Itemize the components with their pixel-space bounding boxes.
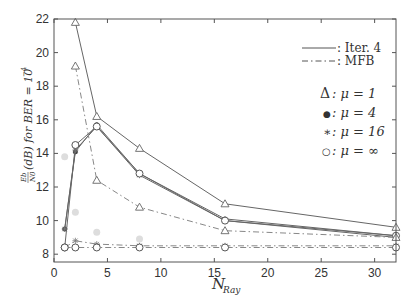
y-label-frac-num: Eb <box>20 172 28 183</box>
star-marker <box>72 238 78 244</box>
legend-mu16-label: : μ = 16 <box>332 124 385 139</box>
circle-marker <box>72 142 79 149</box>
y-tick-label: 12 <box>36 180 50 194</box>
circle-marker <box>93 244 100 251</box>
legend-iter4-label: : Iter. 4 <box>337 41 382 55</box>
circle-marker <box>93 123 100 130</box>
circle-marker <box>136 244 143 251</box>
circle-marker <box>222 244 229 251</box>
circle-marker <box>61 244 68 251</box>
y-label-frac-den: N0 <box>29 171 37 183</box>
y-axis-label: Eb N0 (dB) for BER = 10 −4 <box>20 66 37 183</box>
series-line <box>61 244 399 251</box>
x-tick-label: 10 <box>154 266 168 280</box>
ghost-point <box>61 153 68 160</box>
legend-mu4-label: : μ = 4 <box>332 105 376 120</box>
circle-marker <box>136 170 143 177</box>
legend-star-symbol: ∗ <box>323 125 331 139</box>
legend-mfb-label: : MFB <box>337 54 374 68</box>
y-label-text: (dB) for BER = 10 <box>22 69 35 170</box>
triangle-marker <box>93 112 101 119</box>
triangle-marker <box>136 144 144 151</box>
y-tick-label: 20 <box>36 46 50 60</box>
x-label-sub: Ray <box>222 285 241 295</box>
series-line <box>62 124 399 241</box>
y-tick-label: 18 <box>36 79 50 93</box>
x-tick-label: 5 <box>104 266 111 280</box>
circle-marker <box>72 244 79 251</box>
y-tick-label: 8 <box>42 247 49 261</box>
triangle-marker <box>71 62 79 69</box>
legend-dot-symbol: ● <box>323 109 331 119</box>
chart: 051015202530810121416182022 : Iter. 4 : … <box>0 0 417 307</box>
triangle-marker <box>93 176 101 183</box>
x-tick-label: 30 <box>368 266 382 280</box>
legend: : Iter. 4 : MFB Δ : μ = 1 ● : μ = 4 ∗ : … <box>302 41 385 158</box>
y-tick-label: 10 <box>36 214 50 228</box>
x-axis-label: N Ray <box>211 275 241 295</box>
ghost-point <box>93 229 100 236</box>
legend-muinf-label: : μ = ∞ <box>332 143 379 158</box>
y-label-exp: −4 <box>20 66 28 77</box>
ghost-point <box>136 236 143 243</box>
circle-marker <box>222 217 229 224</box>
x-tick-label: 20 <box>261 266 275 280</box>
x-tick-label: 0 <box>51 266 58 280</box>
y-tick-label: 16 <box>36 113 50 127</box>
legend-mu1-label: : μ = 1 <box>332 86 376 101</box>
y-tick-label: 14 <box>36 146 50 160</box>
triangle-marker <box>221 200 229 207</box>
x-tick-label: 25 <box>315 266 329 280</box>
ghost-point <box>72 209 79 216</box>
y-tick-label: 22 <box>36 12 50 26</box>
legend-triangle-symbol: Δ <box>320 85 330 101</box>
triangle-marker <box>136 203 144 210</box>
legend-circle-symbol: ○ <box>322 146 331 157</box>
series-line <box>62 238 399 251</box>
